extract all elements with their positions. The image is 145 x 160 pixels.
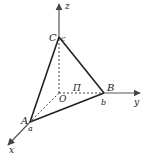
x-axis-label: x — [9, 145, 14, 155]
point-b-label: B — [106, 82, 114, 93]
intercept-a-label: a — [28, 124, 33, 133]
edge-cb — [59, 37, 104, 93]
y-axis-label: y — [133, 97, 140, 107]
point-a-label: A — [20, 115, 28, 126]
z-axis-label: z — [64, 1, 70, 11]
coordinate-diagram: z y x C c B b A a O Π — [0, 0, 145, 160]
intercept-c-label: c — [61, 34, 66, 43]
intercept-b-label: b — [101, 98, 106, 107]
point-c-label: C — [49, 32, 57, 43]
edge-ab — [30, 93, 104, 122]
origin-label: O — [59, 94, 67, 104]
edge-ac — [30, 37, 59, 122]
plane-label: Π — [72, 83, 81, 93]
